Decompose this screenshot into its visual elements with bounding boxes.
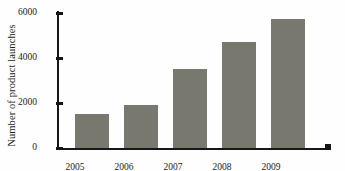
x-tick-label-2005: 2005 [52,163,98,171]
y-tick-label-2000: 2000 [0,98,37,108]
y-tick-6000 [56,12,63,15]
y-tick-4000 [56,57,63,60]
bar-2005 [75,114,109,148]
y-axis-line [57,11,59,150]
x-axis-line [57,148,331,150]
bar-2009 [271,19,305,148]
x-tick-label-2009: 2009 [248,163,294,171]
bar-2006 [124,105,158,148]
y-tick-label-4000: 4000 [0,53,37,63]
plot-area: 0 2000 4000 6000 2005 2006 2007 2008 200… [57,11,331,150]
y-tick-label-6000: 6000 [0,8,37,18]
y-tick-2000 [56,102,63,105]
bar-chart-figure: Number of product launches 0 2000 4000 6… [0,0,345,171]
y-tick-label-0: 0 [0,143,37,153]
bar-2007 [173,69,207,148]
x-tick-label-2006: 2006 [101,163,147,171]
y-tick-0 [56,147,63,150]
x-tick-label-2008: 2008 [199,163,245,171]
bar-2008 [222,42,256,148]
x-tick-label-2007: 2007 [150,163,196,171]
x-axis-end-cap [325,144,331,150]
